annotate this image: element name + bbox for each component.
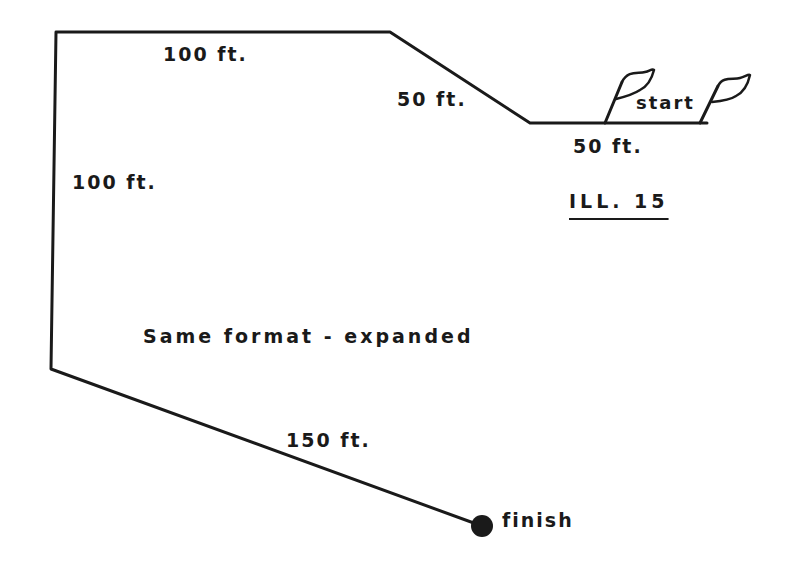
caption-label: Same format - expanded bbox=[143, 327, 474, 346]
finish-label: finish bbox=[502, 511, 574, 530]
start-flag-right-icon bbox=[700, 75, 750, 123]
course-path bbox=[51, 32, 707, 526]
diagonal-segment-label: 50 ft. bbox=[397, 90, 467, 109]
start-segment-label: 50 ft. bbox=[573, 137, 643, 156]
top-segment-label: 100 ft. bbox=[163, 45, 248, 64]
figure-id-label: ILL. 15 bbox=[569, 192, 669, 211]
bottom-segment-label: 150 ft. bbox=[286, 431, 371, 450]
left-segment-label: 100 ft. bbox=[72, 173, 157, 192]
finish-marker-icon bbox=[471, 515, 493, 537]
start-label: start bbox=[636, 94, 695, 112]
